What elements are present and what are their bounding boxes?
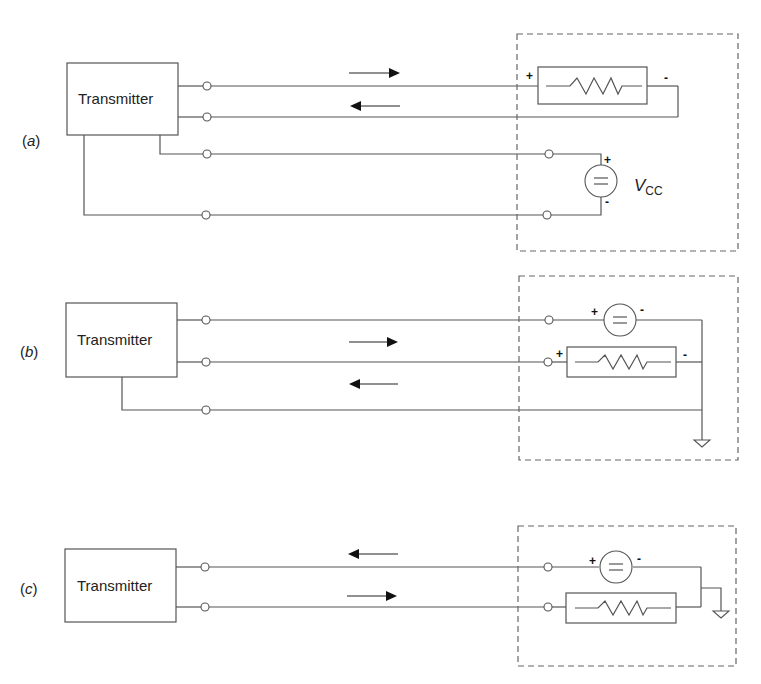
vcc-label: VCC	[634, 176, 663, 198]
terminal-c2-far	[544, 603, 552, 611]
panel-c: (c) Transmitter	[20, 526, 736, 666]
arrow-left-icon	[349, 379, 398, 389]
arrow-right-icon	[347, 591, 397, 601]
arrow-right-icon	[349, 68, 400, 78]
terminal-c2	[201, 603, 209, 611]
resistor-minus-a: -	[664, 71, 668, 85]
arrow-left-icon	[348, 549, 398, 559]
terminal-b2-far	[544, 358, 552, 366]
source-minus-a: -	[605, 195, 609, 209]
panel-a: (a) Transmitter	[22, 34, 738, 251]
transmitter-label-b: Transmitter	[77, 331, 152, 348]
terminal-b1-far	[545, 316, 553, 324]
arrow-right-icon	[349, 337, 398, 347]
resistor-minus-b: -	[683, 348, 687, 362]
terminal-a4-far	[543, 211, 551, 219]
terminal-c1	[201, 563, 209, 571]
wire-b3-stub	[122, 377, 202, 410]
source-plus-b: +	[591, 305, 598, 319]
dc-source-icon	[604, 304, 636, 336]
terminal-b1	[202, 316, 210, 324]
ground-icon	[694, 440, 710, 447]
panel-label-b: (b)	[20, 343, 38, 360]
panel-b: (b) Transmitter	[20, 276, 738, 460]
wire-a4-stub	[84, 135, 202, 215]
wire-a3-to-source	[553, 154, 601, 165]
wire-a3-stub	[160, 135, 203, 154]
ground-lead-c	[701, 588, 721, 611]
panel-label-c: (c)	[20, 580, 38, 597]
ground-icon	[713, 611, 729, 618]
source-minus-b: -	[640, 303, 644, 317]
source-plus-a: +	[604, 153, 611, 167]
transmitter-label-c: Transmitter	[77, 577, 152, 594]
source-plus-c: +	[589, 554, 596, 568]
terminal-c1-far	[544, 563, 552, 571]
resistor-b	[567, 347, 676, 377]
resistor-c	[566, 593, 676, 623]
terminal-a3-far	[545, 150, 553, 158]
terminal-b3	[202, 406, 210, 414]
terminal-a1	[203, 82, 211, 90]
terminal-a3	[203, 150, 211, 158]
dc-source-icon	[585, 165, 617, 197]
terminal-b2	[202, 358, 210, 366]
resistor-a	[538, 67, 647, 104]
arrow-left-icon	[350, 101, 400, 111]
transmitter-label-a: Transmitter	[78, 90, 153, 107]
resistor-plus-a: +	[526, 69, 533, 83]
wiring-diagram: (a) Transmitter	[0, 0, 761, 684]
terminal-a2	[203, 113, 211, 121]
dc-source-icon	[600, 551, 632, 583]
wire-a4-to-source	[551, 197, 601, 215]
resistor-plus-b: +	[556, 347, 563, 361]
terminal-a4	[202, 211, 210, 219]
panel-label-a: (a)	[22, 132, 40, 149]
source-minus-c: -	[637, 552, 641, 566]
